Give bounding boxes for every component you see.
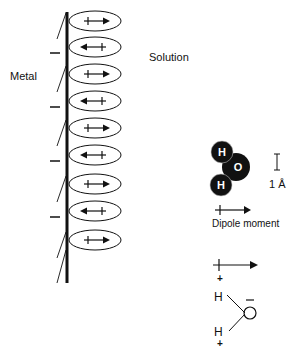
dipole-ellipse xyxy=(69,118,121,138)
dipole-ellipse xyxy=(69,91,121,111)
atom-label-h-bottom: H xyxy=(217,179,225,191)
solution-label: Solution xyxy=(149,51,189,63)
dipole-ellipse xyxy=(69,230,121,250)
dipole-moment-label: Dipole moment xyxy=(212,218,279,229)
plus-bottom: + xyxy=(217,338,223,349)
dipole-ellipse xyxy=(69,37,121,57)
atom-label-h-top: H xyxy=(218,146,226,158)
dipole-ellipse xyxy=(69,11,121,31)
dipole-ellipse xyxy=(69,174,121,194)
plus-top: + xyxy=(217,273,223,284)
schematic-dipole-arrow xyxy=(213,259,258,271)
dipole-ellipse xyxy=(69,64,121,84)
dipole-ellipse xyxy=(69,201,121,221)
water-molecule: H O H xyxy=(210,141,250,196)
surface-tick xyxy=(57,66,66,92)
negative-charges xyxy=(50,53,60,217)
metal-label: Metal xyxy=(10,70,37,82)
h-bottom-label: H xyxy=(214,325,223,339)
scale-label: 1 Å xyxy=(269,178,286,190)
surface-tick xyxy=(57,13,66,39)
dipole-arrow-legend xyxy=(215,205,251,215)
scale-bar xyxy=(274,154,280,170)
surface-tick xyxy=(57,120,66,146)
double-layer-diagram: H O H + H H xyxy=(0,0,298,353)
dipole-ellipse xyxy=(69,145,121,165)
atom-label-o: O xyxy=(234,161,243,173)
dipole-layer xyxy=(69,11,121,250)
h-top-label: H xyxy=(214,290,223,304)
schematic-water xyxy=(227,295,256,331)
surface-tick xyxy=(57,176,66,202)
